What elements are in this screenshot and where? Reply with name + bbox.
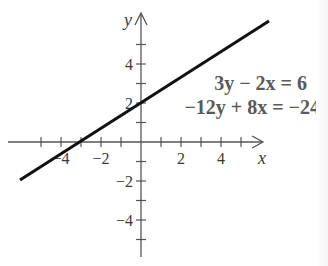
graph-svg: −4 −2 2 4 x 4 2 −2 [0, 0, 328, 266]
x-tick-label-2: 2 [177, 150, 185, 167]
page-edge-shadow [316, 0, 328, 266]
coordinate-plane: −4 −2 2 4 x 4 2 −2 [0, 0, 328, 266]
y-tick-label-neg4: −4 [116, 212, 133, 229]
x-axis-label: x [257, 148, 266, 168]
x-tick-label-neg2: −2 [92, 150, 109, 167]
equation-label-2: −12y + 8x = −24 [184, 96, 320, 119]
y-tick-label-neg2: −2 [116, 173, 133, 190]
y-axis-label: y [122, 10, 132, 30]
y-axis: 4 2 −2 −4 y [116, 10, 147, 257]
y-tick-label-4: 4 [125, 56, 133, 73]
x-tick-label-4: 4 [217, 150, 225, 167]
equation-label-1: 3y − 2x = 6 [214, 72, 307, 95]
